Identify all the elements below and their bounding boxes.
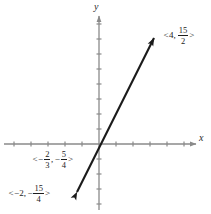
point-label-upper-right: < 4 , 15 2 > [163,26,195,45]
x-coordinate-minus-sign: − [38,155,43,164]
coordinate-separator: , [174,31,176,40]
angle-bracket-open: < [164,31,169,40]
point-label-middle-left: < − 2 3 , − 5 4 > [32,150,74,169]
coordinate-plane-figure: y x < 4 , 15 2 > < − 2 3 , − 5 4 > < −2 … [0,0,211,214]
fraction-numerator: 15 [178,26,189,36]
fraction-denominator: 4 [61,160,67,169]
y-coordinate-minus-sign: − [27,189,32,198]
y-coordinate-fraction: 5 4 [61,150,67,169]
fraction-denominator: 2 [180,36,186,45]
fraction-numerator: 15 [33,184,44,194]
angle-bracket-open: < [33,155,38,164]
fraction-denominator: 4 [36,194,42,203]
angle-bracket-close: > [189,31,194,40]
fraction-denominator: 3 [44,160,50,169]
x-coordinate-fraction: 2 3 [44,150,50,169]
angle-bracket-close: > [45,189,50,198]
fraction-numerator: 5 [61,150,67,160]
angle-bracket-close: > [68,155,73,164]
coordinate-separator: , [51,155,53,164]
fraction-numerator: 2 [44,150,50,160]
y-axis-label: y [94,2,98,12]
x-axis-label: x [199,133,203,143]
vector-line [77,38,154,192]
point-label-lower-left: < −2 , − 15 4 > [8,184,51,203]
y-coordinate-fraction: 15 4 [33,184,44,203]
y-coordinate-minus-sign: − [55,155,60,164]
x-coordinate-value: −2 [14,189,24,198]
coordinate-separator: , [24,189,26,198]
y-coordinate-fraction: 15 2 [178,26,189,45]
angle-bracket-open: < [9,189,14,198]
